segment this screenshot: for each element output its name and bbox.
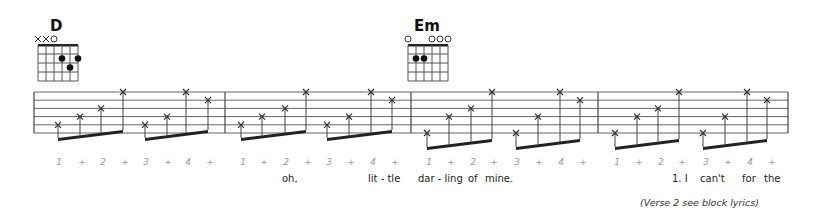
count-mark: + (391, 157, 399, 167)
lyric-word: dar - ling (418, 173, 463, 184)
chord-nut (38, 44, 78, 47)
count-mark: 1 (614, 157, 620, 167)
count-mark: 3 (703, 157, 709, 167)
count-mark: 2 (100, 157, 106, 167)
lyric-word: can't (700, 173, 725, 184)
count-mark: 4 (370, 157, 376, 167)
beam (241, 130, 306, 141)
count-mark: + (768, 157, 776, 167)
count-mark: 4 (558, 157, 564, 167)
count-mark: + (121, 157, 129, 167)
beam (516, 139, 580, 150)
count-mark: 2 (470, 157, 476, 167)
count-mark: + (579, 157, 587, 167)
chord-name: D (50, 17, 62, 35)
count-mark: 4 (747, 157, 753, 167)
count-mark: + (635, 157, 643, 167)
count-mark: 3 (514, 157, 520, 167)
open-string-icon (51, 36, 57, 42)
count-mark: 4 (185, 157, 191, 167)
count-mark: + (678, 157, 686, 167)
beam (327, 130, 392, 141)
open-string-icon (405, 36, 411, 42)
verse-note: (Verse 2 see block lyrics) (640, 197, 759, 208)
finger-dot (67, 64, 74, 71)
count-mark: + (724, 157, 732, 167)
lyric-word: lit - tle (368, 173, 400, 184)
count-mark: + (347, 157, 355, 167)
finger-dot (75, 55, 82, 62)
count-mark: 1 (426, 157, 432, 167)
count-mark: + (447, 157, 455, 167)
beam (58, 130, 123, 141)
lyric-word: of (468, 173, 478, 184)
count-mark: + (78, 157, 86, 167)
count-mark: + (490, 157, 498, 167)
lyric-word: the (764, 173, 780, 184)
count-mark: 2 (283, 157, 289, 167)
lyric-word: oh, (282, 173, 298, 184)
count-mark: 2 (658, 157, 664, 167)
tab-staff (0, 0, 816, 217)
count-mark: 3 (143, 157, 149, 167)
beam (703, 139, 767, 150)
lyric-word: for (742, 173, 756, 184)
count-mark: + (535, 157, 543, 167)
open-string-icon (445, 36, 451, 42)
count-mark: + (206, 157, 214, 167)
count-mark: + (260, 157, 268, 167)
finger-dot (421, 55, 428, 62)
chord-name: Em (414, 17, 440, 35)
count-mark: + (304, 157, 312, 167)
finger-dot (413, 55, 420, 62)
lyric-word: mine. (485, 173, 513, 184)
count-mark: + (164, 157, 172, 167)
chord-nut (408, 44, 448, 47)
beam (615, 139, 679, 150)
finger-dot (59, 55, 66, 62)
count-mark: 3 (326, 157, 332, 167)
beam (145, 130, 208, 141)
count-mark: 1 (240, 157, 246, 167)
beam (427, 139, 492, 150)
open-string-icon (429, 36, 435, 42)
lyric-word: 1. I (672, 173, 688, 184)
open-string-icon (437, 36, 443, 42)
count-mark: 1 (56, 157, 62, 167)
